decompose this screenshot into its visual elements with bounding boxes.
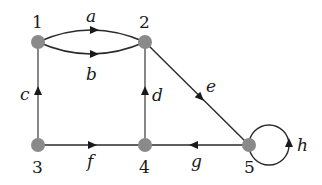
edge-c: c: [20, 42, 38, 145]
node-5: 5: [242, 138, 256, 177]
edge-label-d: d: [152, 85, 163, 105]
edge-f: f: [38, 145, 145, 171]
node-label-1: 1: [32, 12, 43, 32]
node-3: 3: [31, 138, 45, 177]
node-label-3: 3: [32, 157, 43, 177]
edge-label-c: c: [20, 84, 30, 104]
node-4: 4: [138, 138, 152, 177]
node-2: 2: [138, 12, 152, 49]
edge-a: a: [38, 6, 145, 42]
edge-label-h: h: [297, 135, 308, 155]
node-1: 1: [31, 12, 45, 49]
edge-label-f: f: [85, 151, 96, 171]
edge-label-a: a: [86, 6, 96, 26]
node-label-5: 5: [244, 157, 255, 177]
edge-b: b: [38, 42, 145, 84]
edge-h: h: [249, 125, 308, 165]
node-label-4: 4: [139, 157, 150, 177]
edge-label-e: e: [206, 76, 216, 96]
edge-label-g: g: [191, 151, 202, 171]
edge-label-b: b: [86, 64, 97, 84]
graph-diagram: a b c d e f g h: [0, 0, 322, 185]
node-label-2: 2: [139, 12, 150, 32]
edge-g: g: [145, 145, 249, 171]
